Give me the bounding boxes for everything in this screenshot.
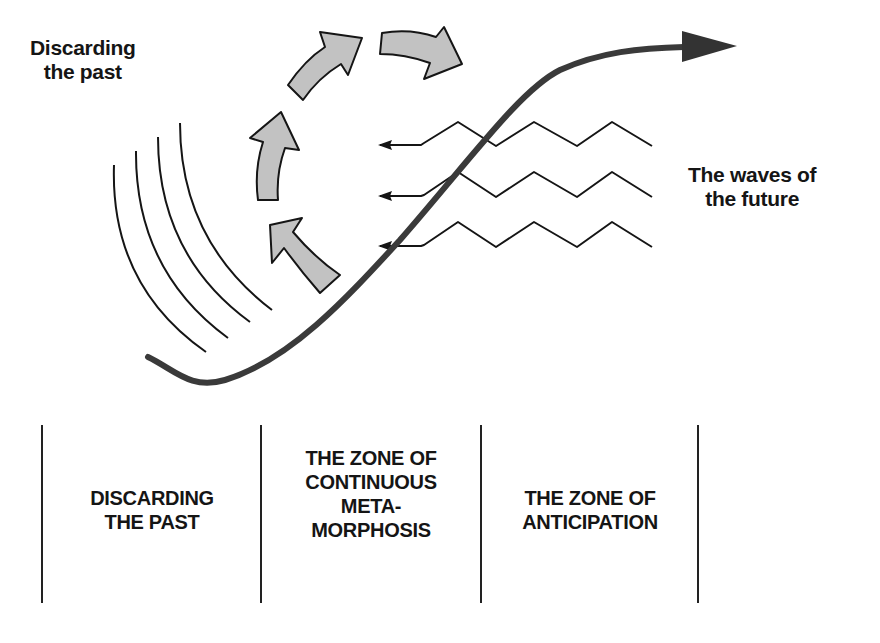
wave-arrowheads xyxy=(378,140,392,251)
zone-continuous-metamorphosis: THE ZONE OF CONTINUOUS META- MORPHOSIS xyxy=(263,446,479,542)
wave-2 xyxy=(380,172,652,197)
cycle-arrows xyxy=(250,27,462,293)
label-line: the future xyxy=(688,187,816,211)
label-discarding-past: Discarding the past xyxy=(30,36,136,84)
zone-line: META- xyxy=(263,494,479,518)
wave-1-arrowhead-icon xyxy=(378,140,392,150)
transformation-diagram xyxy=(0,0,880,643)
zone-divider xyxy=(41,425,43,603)
label-line: the past xyxy=(30,60,136,84)
wave-3 xyxy=(380,222,652,247)
zone-anticipation: THE ZONE OF ANTICIPATION xyxy=(483,486,697,534)
label-line: Discarding xyxy=(30,36,136,60)
main-curve-arrowhead-icon xyxy=(682,31,737,62)
future-waves xyxy=(380,122,652,247)
label-waves-of-future: The waves of the future xyxy=(688,163,816,211)
zone-line: THE ZONE OF xyxy=(263,446,479,470)
zone-divider xyxy=(480,425,482,603)
zone-divider xyxy=(697,425,699,603)
zone-line: THE ZONE OF xyxy=(483,486,697,510)
cycle-arrow-left xyxy=(250,112,299,200)
label-line: The waves of xyxy=(688,163,816,187)
zone-line: ANTICIPATION xyxy=(483,510,697,534)
zone-line: THE PAST xyxy=(44,510,260,534)
zone-line: MORPHOSIS xyxy=(263,518,479,542)
cycle-arrow-bottom xyxy=(270,218,340,293)
cycle-arrow-top-left xyxy=(288,32,362,100)
zone-discarding-the-past: DISCARDING THE PAST xyxy=(44,486,260,534)
zone-line: DISCARDING xyxy=(44,486,260,510)
main-curve xyxy=(148,47,684,383)
wave-2-arrowhead-icon xyxy=(378,191,392,201)
cycle-arrow-top-right xyxy=(380,27,462,79)
zone-line: CONTINUOUS xyxy=(263,470,479,494)
wave-1 xyxy=(380,122,652,146)
zone-divider xyxy=(260,425,262,603)
arc-4 xyxy=(180,123,272,310)
discarding-arcs xyxy=(114,123,272,352)
